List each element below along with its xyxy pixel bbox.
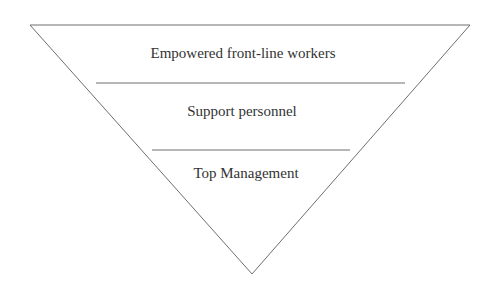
level-label-top-management: Top Management xyxy=(1,164,490,182)
level-label-support-personnel: Support personnel xyxy=(0,102,487,120)
level-label-front-line-workers: Empowered front-line workers xyxy=(0,44,488,62)
inverted-pyramid-diagram: Empowered front-line workers Support per… xyxy=(0,0,490,289)
